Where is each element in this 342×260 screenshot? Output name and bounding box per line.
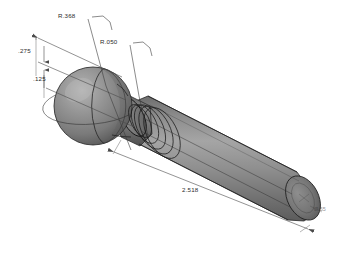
dim-125-label: .125	[33, 75, 46, 82]
r368-leader-line	[92, 16, 103, 17]
dim-2518-extension-right	[300, 225, 310, 232]
dim-275-label: .275	[18, 47, 31, 54]
end-cap-label: Ø.55	[314, 206, 326, 212]
r050-leader-line	[133, 42, 143, 43]
dim-2518-label: 2.518	[182, 186, 199, 193]
r050-leader-diagonal	[143, 42, 152, 56]
r368-leader-diagonal	[103, 16, 112, 30]
cad-drawing-canvas: .275 .125 R.368 R.050	[0, 0, 342, 260]
r050-label: R.050	[100, 38, 118, 45]
part-solid-geometry	[54, 67, 327, 226]
r368-label: R.368	[58, 12, 76, 19]
isometric-part-drawing: .275 .125 R.368 R.050	[0, 0, 342, 260]
